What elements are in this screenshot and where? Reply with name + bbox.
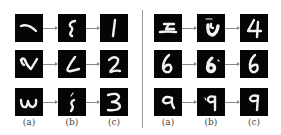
arrow [225, 64, 239, 65]
arrow [43, 102, 57, 103]
column-label-b: (b) [58, 117, 86, 127]
left-row3-output-digit [100, 88, 128, 116]
right-row3-intermediate-digit [197, 88, 225, 116]
right-row2-input-digit [154, 50, 182, 78]
arrow [43, 64, 57, 65]
arrow [86, 102, 99, 103]
right-row2-intermediate-digit [197, 50, 225, 78]
column-label-b: (b) [197, 117, 225, 127]
left-row2-input-digit [15, 50, 43, 78]
left-row3-intermediate-digit [58, 88, 86, 116]
right-row1-intermediate-digit [197, 14, 225, 42]
column-label-c: (c) [100, 117, 128, 127]
panel-separator [142, 10, 143, 128]
arrow [43, 28, 57, 29]
arrow [225, 28, 239, 29]
right-row3-input-digit [154, 88, 182, 116]
left-row1-input-digit [15, 14, 43, 42]
left-row2-output-digit [100, 50, 128, 78]
left-row3-input-digit [15, 88, 43, 116]
right-row2-output-digit [240, 50, 268, 78]
column-label-a: (a) [15, 117, 43, 127]
column-label-a: (a) [154, 117, 182, 127]
right-row1-input-digit [154, 14, 182, 42]
left-row2-intermediate-digit [58, 50, 86, 78]
arrow [86, 64, 99, 65]
left-row1-intermediate-digit [58, 14, 86, 42]
left-row1-output-digit [100, 14, 128, 42]
arrow [182, 64, 196, 65]
right-row1-output-digit [240, 14, 268, 42]
arrow [86, 28, 99, 29]
arrow [182, 102, 196, 103]
arrow [225, 102, 239, 103]
right-row3-output-digit [240, 88, 268, 116]
column-label-c: (c) [240, 117, 268, 127]
arrow [182, 28, 196, 29]
